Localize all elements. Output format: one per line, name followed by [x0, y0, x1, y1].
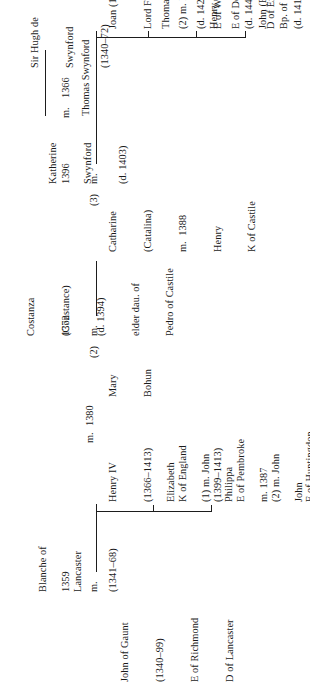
child-john-beaufort-name: John (Beaufort) — [257, 0, 269, 29]
spouse-blanche-line3: (1341–68) — [107, 546, 119, 592]
marriage-2-order: (2) — [88, 346, 100, 358]
root-dates: (1340–99) — [154, 618, 166, 682]
prior-marriage-m-label: m. — [60, 107, 72, 118]
issue-1-stub-elizabeth — [153, 505, 154, 512]
child-henry-beaufort-name: Henry — [208, 0, 220, 29]
child-john-beaufort-line2: (d. 1410) — [292, 0, 304, 29]
prior-marriage-issue: Thomas Swynford — [80, 40, 92, 116]
issue-3-stub-henry — [196, 31, 197, 38]
henry-iv-spouse: Mary Bohun — [84, 369, 177, 397]
marriage-3-order: (3) — [88, 194, 100, 206]
henry-iv-marriage-m: m. — [84, 432, 96, 443]
child-john-beaufort: John (Beaufort) (d. 1410) E of Somerset — [234, 0, 310, 29]
spouse-blanche-line2: Lancaster — [72, 546, 84, 592]
issue-3-stub-joan — [96, 31, 97, 38]
issue-3-stub-john — [245, 31, 246, 38]
prior-marriage-year: 1366 — [60, 77, 72, 98]
spouse-katherine-line3: (d. 1403) — [117, 143, 129, 185]
figure-page: John of Gaunt (1340–99) E of Richmond D … — [0, 0, 310, 688]
spouse-costanza-line4: elder dau. of — [130, 268, 142, 336]
child-catharine-name: Catharine — [107, 201, 119, 252]
genealogy-chart: John of Gaunt (1340–99) E of Richmond D … — [0, 0, 310, 688]
spouse-blanche-line1: Blanche of — [37, 546, 49, 592]
child-thomas-name: Thomas — [160, 0, 172, 29]
spouse-costanza-line1: Costanza — [25, 268, 37, 336]
child-philippa: Philippa m. 1387 John K of Portugal — [200, 445, 310, 502]
spouse-costanza-line3: (d. 1394) — [95, 268, 107, 336]
marriage-3-spouse: Katherine Swynford (d. 1403) — [24, 143, 152, 185]
child-catharine-alt: (Catalina) — [142, 201, 154, 252]
child-philippa-name: Philippa — [223, 445, 235, 502]
spouse-costanza-line2: (Constance) — [60, 268, 72, 336]
henry-iv-marriage-year: 1380 — [84, 405, 96, 426]
marriage-1-spouse: Blanche of Lancaster (1341–68) — [14, 546, 142, 592]
child-philippa-spouse: John — [293, 445, 305, 502]
child-catharine: Catharine (Catalina) m. 1388 Henry K of … — [84, 201, 281, 252]
marriage-2-spouse: Costanza (Constance) (d. 1394) elder dau… — [2, 268, 199, 336]
spouse-mary-line2: Bohun — [142, 369, 154, 397]
spouse-katherine-line2: Swynford — [82, 143, 94, 185]
issue-1-stub-philippa — [211, 505, 212, 512]
spouse-katherine-line1: Katherine — [47, 143, 59, 185]
child-catharine-spouse: Henry — [212, 201, 224, 252]
spouse-mary-line1: Mary — [107, 369, 119, 397]
issue-1-stub-henry — [96, 504, 97, 512]
root-person: John of Gaunt (1340–99) E of Richmond D … — [96, 618, 258, 682]
child-henry-iv-name: Henry IV — [107, 445, 119, 502]
issue-3-spine — [96, 37, 246, 38]
root-name: John of Gaunt — [119, 618, 131, 682]
root-title-lancaster: D of Lancaster — [224, 618, 236, 682]
root-title-richmond: E of Richmond — [189, 618, 201, 682]
issue-2-stub-catharine — [96, 261, 97, 269]
child-philippa-marriage: m. 1387 — [258, 445, 270, 502]
husband-hugh-line2: Swynford — [64, 17, 76, 68]
child-elizabeth-name: Elizabeth — [165, 431, 177, 502]
child-catharine-spouse-title: K of Castile — [246, 201, 258, 252]
child-catharine-marriage: m. 1388 — [177, 201, 189, 252]
husband-hugh-line1: Sir Hugh de — [29, 17, 41, 68]
spouse-costanza-line5: Pedro of Castile — [164, 268, 176, 336]
child-joan-name: Joan (1) m. Robert, — [107, 0, 119, 29]
issue-3-stub-thomas — [148, 31, 149, 38]
